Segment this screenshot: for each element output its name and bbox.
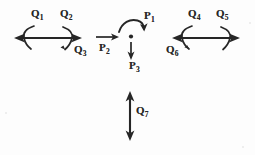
diagram-canvas: Q1 Q2 Q3 Q4 Q5 Q6 Q7 P1 P2 P3 — [0, 0, 255, 155]
label-p1: P1 — [144, 10, 154, 21]
left-double-arrow — [14, 26, 82, 50]
label-q7: Q7 — [136, 105, 148, 116]
label-q5: Q5 — [216, 8, 228, 19]
center-dot — [129, 34, 133, 38]
label-q3: Q3 — [74, 44, 86, 55]
arrow-graphics — [0, 0, 255, 155]
bottom-vertical-double-arrow — [126, 91, 135, 141]
center-arrow-cluster — [96, 20, 148, 60]
right-double-arrow — [172, 26, 240, 50]
label-q1: Q1 — [31, 8, 43, 19]
scan-speck — [5, 112, 7, 114]
scan-speck — [242, 146, 244, 148]
p1-curved-arrow — [119, 20, 148, 32]
label-q2: Q2 — [60, 8, 72, 19]
label-p2: P2 — [99, 42, 109, 53]
p3-down-arrow — [128, 42, 135, 60]
label-q6: Q6 — [166, 44, 178, 55]
scan-speck — [249, 22, 251, 24]
p2-right-arrow — [96, 34, 119, 41]
label-p3: P3 — [129, 60, 139, 71]
label-q4: Q4 — [188, 8, 200, 19]
